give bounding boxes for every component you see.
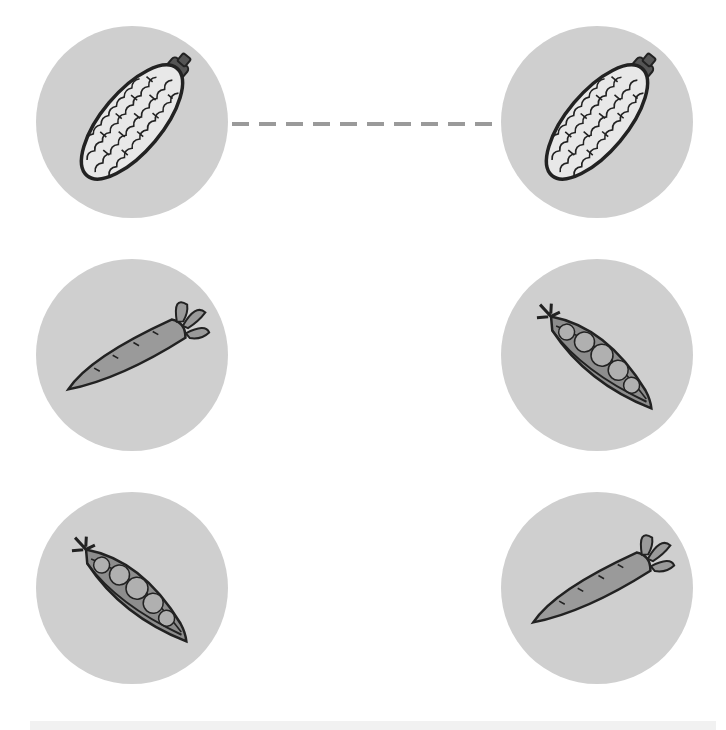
bottom-strip	[30, 721, 716, 730]
corn-icon	[36, 26, 228, 218]
left-item-corn[interactable]: corn	[36, 26, 228, 218]
right-item-pea-pod[interactable]: pea pod	[501, 259, 693, 451]
left-item-carrot[interactable]: carrot	[36, 259, 228, 451]
right-item-carrot[interactable]: carrot	[501, 492, 693, 684]
pea-pod-icon	[36, 492, 228, 684]
right-item-corn[interactable]: corn	[501, 26, 693, 218]
example-match-dashed-line	[232, 122, 492, 126]
pea-pod-icon	[501, 259, 693, 451]
corn-icon	[501, 26, 693, 218]
left-item-pea-pod[interactable]: pea pod	[36, 492, 228, 684]
carrot-icon	[501, 492, 693, 684]
carrot-icon	[36, 259, 228, 451]
